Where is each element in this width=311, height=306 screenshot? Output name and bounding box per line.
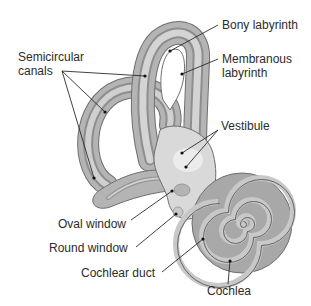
label-cochlear-duct: Cochlear duct [81,266,155,280]
label-cochlea: Cochlea [207,284,251,298]
label-semicircular-canals: Semicircular canals [18,50,84,78]
inner-ear-diagram: Semicircular canals Bony labyrinth Membr… [0,0,311,306]
label-oval-window: Oval window [58,217,126,231]
label-membranous-labyrinth: Membranous labyrinth [222,52,292,80]
label-round-window: Round window [49,241,128,255]
inner-ear-illustration [0,0,311,306]
label-bony-labyrinth: Bony labyrinth [222,18,298,32]
oval-window-shape [174,184,190,196]
label-vestibule: Vestibule [221,119,270,133]
